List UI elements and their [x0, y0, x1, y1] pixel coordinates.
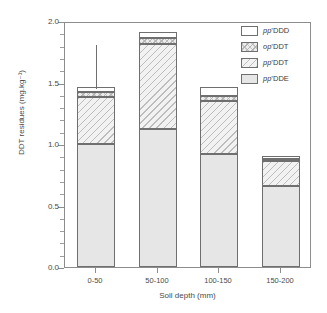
bar-segment[interactable]: [262, 156, 300, 158]
bar-stack[interactable]: [77, 87, 115, 267]
bar-segment[interactable]: [200, 154, 238, 267]
bar-stack[interactable]: [200, 87, 238, 267]
bar-segment[interactable]: [262, 161, 300, 186]
bar-segment[interactable]: [139, 129, 177, 267]
x-tick-label: 50-100: [126, 276, 188, 285]
x-tick-label: 150-200: [249, 276, 311, 285]
x-tick-label: 100-150: [187, 276, 249, 285]
legend-label: pp’DDT: [263, 58, 288, 67]
bar-segment[interactable]: [139, 32, 177, 38]
y-axis-title: DDT residues (mg.kg⁻¹): [17, 48, 26, 178]
legend-swatch: [241, 26, 258, 36]
legend-swatch: [241, 42, 258, 52]
x-tick-label: 0-50: [64, 276, 126, 285]
legend-item[interactable]: pp’DDT: [241, 56, 307, 69]
x-tick: [95, 268, 96, 273]
x-tick: [157, 268, 158, 273]
legend-label: pp’DDE: [263, 74, 289, 83]
legend-item[interactable]: pp’DDD: [241, 24, 307, 37]
chart-figure: DDT residues (mg.kg⁻¹) 0.00.51.01.52.0 0…: [0, 0, 327, 313]
x-axis-title: Soil depth (mm): [64, 291, 311, 300]
legend-item[interactable]: pp’DDE: [241, 72, 307, 85]
bar-segment[interactable]: [77, 92, 115, 97]
bar-segment[interactable]: [262, 186, 300, 267]
y-tick-label: 1.5: [19, 80, 59, 88]
legend-label: pp’DDD: [263, 26, 289, 35]
y-tick-label: 2.0: [19, 18, 59, 26]
y-tick-label: 1.0: [19, 141, 59, 149]
bar-stack[interactable]: [139, 32, 177, 267]
bar-stack[interactable]: [262, 156, 300, 267]
legend-swatch: [241, 58, 258, 68]
legend-label: op’DDT: [263, 42, 288, 51]
bar-segment[interactable]: [77, 144, 115, 267]
bar-segment[interactable]: [200, 101, 238, 154]
legend-item[interactable]: op’DDT: [241, 40, 307, 53]
x-tick: [218, 268, 219, 273]
bar-segment[interactable]: [77, 97, 115, 144]
x-tick: [280, 268, 281, 273]
bar-segment[interactable]: [139, 44, 177, 129]
y-tick-label: 0.0: [19, 264, 59, 272]
legend-swatch: [241, 74, 258, 84]
bar-segment[interactable]: [200, 96, 238, 101]
bar-segment[interactable]: [139, 38, 177, 44]
legend: pp’DDDop’DDTpp’DDTpp’DDE: [241, 24, 307, 88]
bar-segment[interactable]: [262, 159, 300, 161]
y-tick-label: 0.5: [19, 203, 59, 211]
error-bar: [96, 45, 97, 89]
bar-segment[interactable]: [200, 87, 238, 96]
